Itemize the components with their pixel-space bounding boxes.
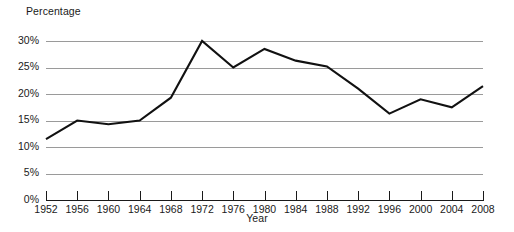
y-axis-tick-label: 10% bbox=[18, 140, 39, 152]
y-axis-tick-label: 25% bbox=[18, 60, 39, 72]
data-series bbox=[46, 41, 483, 139]
x-axis-title: Year bbox=[0, 212, 514, 224]
gridlines bbox=[46, 42, 483, 175]
series-line-percentage bbox=[46, 41, 483, 139]
line-chart: Percentage 0%5%10%15%20%25%30% 195219561… bbox=[0, 0, 514, 232]
y-axis-tick-label: 30% bbox=[18, 34, 39, 46]
x-axis-tick-marks bbox=[47, 191, 484, 201]
y-axis-tick-labels: 0%5%10%15%20%25%30% bbox=[18, 34, 39, 205]
y-axis-tick-label: 20% bbox=[18, 87, 39, 99]
y-axis-tick-label: 5% bbox=[24, 166, 39, 178]
plot-area: 0%5%10%15%20%25%30% 19521956196019641968… bbox=[0, 0, 514, 232]
axis-lines bbox=[47, 191, 484, 201]
y-axis-tick-label: 15% bbox=[18, 113, 39, 125]
